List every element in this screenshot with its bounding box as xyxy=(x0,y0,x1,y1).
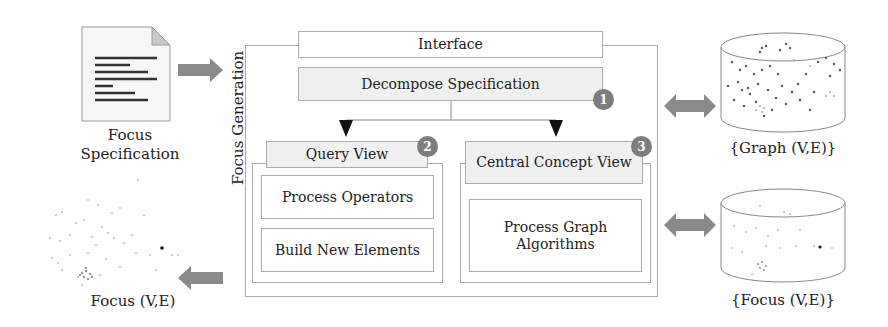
double-arrow-graph-icon xyxy=(664,94,716,118)
process-graph-algorithms-box: Process Graph Algorithms xyxy=(469,199,642,272)
central-concept-view-title: Central Concept View xyxy=(476,154,632,171)
query-view-title: Query View xyxy=(306,146,388,163)
process-graph-algorithms-label: Process Graph Algorithms xyxy=(500,219,611,253)
double-arrow-focus-icon xyxy=(664,213,716,237)
process-operators-label: Process Operators xyxy=(282,189,413,206)
build-new-elements-box: Build New Elements xyxy=(261,228,434,272)
central-concept-view-title-box: Central Concept View xyxy=(465,141,643,184)
build-new-elements-label: Build New Elements xyxy=(275,242,420,259)
step-badge-2: 2 xyxy=(417,136,438,157)
focus-database-caption: {Focus (V,E)} xyxy=(718,291,848,310)
process-operators-box: Process Operators xyxy=(261,175,434,219)
focus-database-icon xyxy=(720,186,846,286)
step-badge-3: 3 xyxy=(631,136,652,157)
graph-database-caption: {Graph (V,E)} xyxy=(718,139,848,158)
query-view-title-box: Query View xyxy=(266,141,428,168)
graph-database-icon xyxy=(720,30,846,136)
